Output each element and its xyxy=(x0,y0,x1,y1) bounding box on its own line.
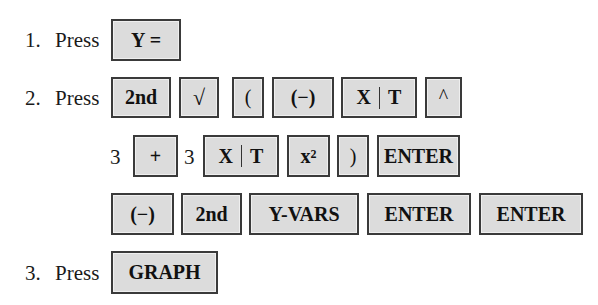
key-plus[interactable]: + xyxy=(133,135,178,177)
key-t-label: T xyxy=(250,145,263,168)
key-x-label: x xyxy=(301,145,311,168)
key-y-equals[interactable]: Y = xyxy=(111,19,181,61)
step-2-press-text: Press xyxy=(55,86,99,110)
key-x-t[interactable]: XT xyxy=(203,135,279,177)
key-sqrt[interactable]: √ xyxy=(179,77,219,118)
key-negative[interactable]: (−) xyxy=(111,193,174,235)
key-enter[interactable]: ENTER xyxy=(377,135,460,177)
digit-three: 3 xyxy=(110,145,121,169)
step-3-number: 3. xyxy=(25,261,41,285)
key-right-paren[interactable]: ) xyxy=(337,135,369,177)
key-x-label: X xyxy=(357,86,371,109)
step-2-number: 2. xyxy=(25,86,41,110)
divider xyxy=(379,87,380,109)
key-enter[interactable]: ENTER xyxy=(367,193,471,235)
key-graph[interactable]: GRAPH xyxy=(111,251,218,294)
key-enter[interactable]: ENTER xyxy=(479,193,583,235)
key-2nd[interactable]: 2nd xyxy=(181,193,242,235)
key-left-paren[interactable]: ( xyxy=(232,77,264,118)
key-y-vars[interactable]: Y-VARS xyxy=(249,193,359,235)
key-2nd[interactable]: 2nd xyxy=(111,77,171,118)
key-negative[interactable]: (−) xyxy=(272,77,334,118)
step-3-press-text: Press xyxy=(55,261,99,285)
key-x-t[interactable]: XT xyxy=(341,77,417,118)
step-1-press-text: Press xyxy=(55,28,99,52)
key-t-label: T xyxy=(388,86,401,109)
divider xyxy=(241,145,242,167)
step-1-number: 1. xyxy=(25,28,41,52)
key-x-squared[interactable]: x2 xyxy=(287,135,330,177)
digit-three: 3 xyxy=(184,145,195,169)
key-caret[interactable]: ^ xyxy=(425,77,462,118)
key-x-label: X xyxy=(219,145,233,168)
